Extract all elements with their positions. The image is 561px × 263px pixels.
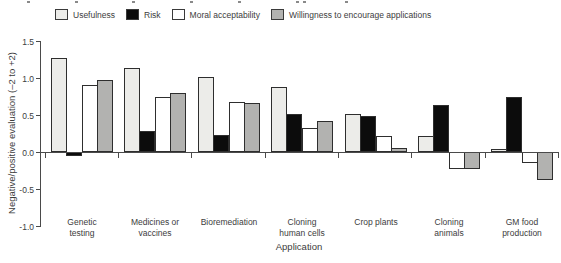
bar-usefulness-1 bbox=[124, 68, 140, 152]
category-label-2: Bioremediation bbox=[189, 217, 269, 228]
y-axis-title: Negative/positive evaluation (–2 to +2) bbox=[6, 52, 17, 214]
bar-moral-acceptability-1 bbox=[155, 97, 171, 152]
x-tick bbox=[191, 153, 192, 158]
y-tick bbox=[36, 189, 40, 190]
legend-item-2: Moral acceptability bbox=[172, 9, 260, 20]
legend-item-0: Usefulness bbox=[55, 9, 115, 20]
bar-moral-acceptability-0 bbox=[82, 85, 98, 152]
text-fragment-speck bbox=[27, 1, 30, 3]
y-tick bbox=[36, 41, 40, 42]
bar-willingness-to-encourage-applications-2 bbox=[244, 103, 260, 152]
bar-risk-2 bbox=[213, 135, 229, 152]
category-label-0: Genetictesting bbox=[42, 217, 122, 238]
bar-risk-5 bbox=[433, 105, 449, 152]
text-fragment-speck bbox=[303, 1, 306, 3]
y-tick bbox=[36, 115, 40, 116]
y-tick bbox=[36, 78, 40, 79]
x-tick bbox=[338, 153, 339, 158]
text-fragment-speck bbox=[190, 1, 193, 3]
category-label-6: GM foodproduction bbox=[482, 217, 561, 238]
bar-usefulness-4 bbox=[345, 114, 361, 152]
bar-moral-acceptability-5 bbox=[449, 152, 465, 169]
bar-risk-4 bbox=[360, 116, 376, 152]
bar-moral-acceptability-4 bbox=[376, 136, 392, 152]
legend-swatch-icon bbox=[172, 9, 185, 20]
x-tick bbox=[558, 153, 559, 158]
bar-willingness-to-encourage-applications-6 bbox=[537, 152, 553, 180]
y-tick bbox=[36, 226, 40, 227]
y-tick-label: 1.5 bbox=[9, 37, 34, 47]
bar-usefulness-3 bbox=[271, 87, 287, 152]
x-tick bbox=[411, 153, 412, 158]
text-fragment-speck bbox=[75, 1, 78, 3]
bar-willingness-to-encourage-applications-0 bbox=[97, 80, 113, 152]
bar-risk-1 bbox=[139, 131, 155, 152]
bar-moral-acceptability-3 bbox=[302, 128, 318, 152]
category-label-1: Medicines orvaccines bbox=[115, 217, 195, 238]
legend-swatch-icon bbox=[55, 9, 68, 20]
bar-moral-acceptability-6 bbox=[522, 152, 538, 163]
y-axis-line bbox=[40, 41, 41, 227]
legend-swatch-icon bbox=[271, 9, 284, 20]
category-label-5: Cloninganimals bbox=[409, 217, 489, 238]
bar-willingness-to-encourage-applications-3 bbox=[317, 121, 333, 152]
bar-usefulness-0 bbox=[51, 58, 67, 152]
category-label-4: Crop plants bbox=[336, 217, 416, 228]
x-tick bbox=[265, 153, 266, 158]
chart-legend: UsefulnessRiskMoral acceptabilityWilling… bbox=[55, 9, 431, 20]
figure-canvas: { "chart_data": { "type": "bar", "catego… bbox=[0, 0, 561, 263]
bar-willingness-to-encourage-applications-5 bbox=[464, 152, 480, 169]
bar-risk-6 bbox=[506, 97, 522, 152]
text-fragment-speck bbox=[238, 1, 241, 3]
legend-label: Risk bbox=[144, 10, 161, 20]
category-label-3: Cloninghuman cells bbox=[262, 217, 342, 238]
x-tick bbox=[45, 153, 46, 158]
legend-swatch-icon bbox=[126, 9, 139, 20]
x-tick bbox=[485, 153, 486, 158]
bar-moral-acceptability-2 bbox=[229, 102, 245, 152]
text-fragment-speck bbox=[132, 1, 135, 3]
legend-item-3: Willingness to encourage applications bbox=[271, 9, 431, 20]
bar-chart: UsefulnessRiskMoral acceptabilityWilling… bbox=[0, 0, 561, 263]
legend-label: Moral acceptability bbox=[190, 10, 260, 20]
legend-label: Willingness to encourage applications bbox=[289, 10, 431, 20]
bar-usefulness-5 bbox=[418, 136, 434, 152]
bar-usefulness-2 bbox=[198, 77, 214, 152]
cropped-text-artifact bbox=[0, 0, 561, 4]
legend-item-1: Risk bbox=[126, 9, 161, 20]
y-tick-label: -1.0 bbox=[9, 222, 34, 232]
x-tick bbox=[118, 153, 119, 158]
text-fragment-speck bbox=[296, 1, 299, 3]
legend-label: Usefulness bbox=[73, 10, 115, 20]
x-axis-title: Application bbox=[40, 241, 558, 252]
bar-willingness-to-encourage-applications-1 bbox=[170, 93, 186, 152]
text-fragment-speck bbox=[345, 1, 348, 3]
bar-risk-3 bbox=[286, 114, 302, 152]
